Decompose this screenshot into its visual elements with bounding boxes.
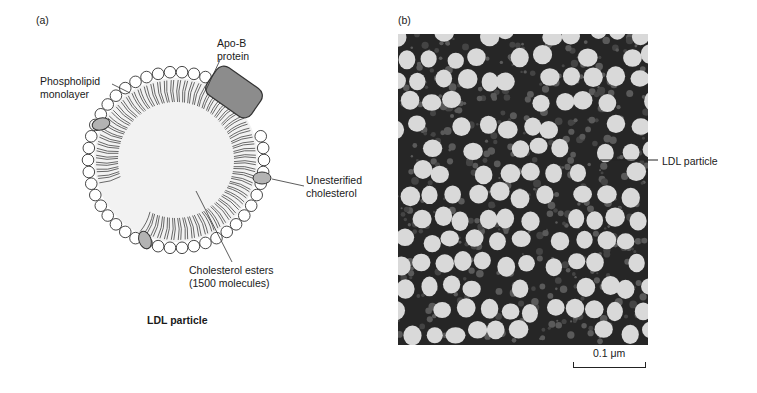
ldl-particle-image [498, 121, 518, 139]
ldl-particle-image [607, 302, 623, 321]
ldl-particle-image [480, 210, 497, 229]
ldl-particle-image [568, 253, 585, 269]
ldl-particle-image [576, 231, 592, 249]
ldl-particle-image [563, 67, 580, 85]
ldl-particle-image [573, 186, 592, 203]
ldl-particle-image [489, 232, 506, 250]
ldl-particle-image [435, 70, 452, 88]
ldl-particle-image [436, 254, 454, 273]
ldl-particle-image [599, 94, 617, 112]
ldl-particle-image [524, 118, 541, 136]
panel-b-tag: (b) [398, 14, 411, 26]
ldl-particle-image [480, 116, 497, 134]
ldl-particle-image [502, 304, 520, 320]
ldl-particle-image [401, 187, 421, 207]
ldl-particle-image [532, 95, 549, 112]
ldl-particle-image [434, 34, 454, 42]
unesterified-cholesterol [253, 172, 271, 184]
ldl-particle-image [622, 188, 640, 208]
ldl-particle-image [606, 66, 625, 86]
ldl-particle-image [466, 229, 484, 247]
ldl-particle-image [446, 327, 466, 343]
ldl-particle-image [632, 34, 648, 45]
phospholipid-head [245, 200, 257, 212]
ldl-particle-image [457, 298, 476, 317]
cholesterol-esters-label: Cholesterol esters (1500 molecules) [189, 264, 274, 289]
ldl-particle-image [595, 320, 613, 337]
phospholipid-head [89, 189, 101, 201]
ldl-particle-image [512, 231, 531, 248]
ldl-particle-image [511, 189, 530, 208]
ldl-particle-image [421, 50, 437, 67]
ldl-particle-image [629, 212, 646, 231]
ldl-particle-image [533, 45, 552, 64]
ldl-particle-image [431, 166, 449, 183]
ldl-particle-image [568, 209, 584, 228]
phospholipid-head [119, 226, 131, 238]
ldl-particle-title: LDL particle [147, 314, 208, 327]
ldl-particle-image [586, 253, 604, 272]
ldl-particle-image [424, 235, 441, 252]
phospholipid-head [258, 154, 270, 166]
ldl-particle-image [644, 92, 648, 111]
phospholipid-head [82, 154, 94, 166]
phospholipid-head [188, 68, 200, 80]
ldl-particle-image [509, 320, 529, 339]
ldl-particle-image [414, 160, 433, 179]
phospholipid-head [119, 82, 131, 94]
phospholipid-head [251, 189, 263, 201]
ldl-particle-image [468, 321, 487, 339]
ldl-particle-image [605, 208, 625, 227]
ldl-particle-micrograph-label: LDL particle [662, 155, 718, 168]
ldl-particle-image [539, 121, 558, 139]
ldl-particle-image [573, 91, 592, 109]
ldl-particle-image [452, 117, 470, 136]
ldl-particle-image [398, 229, 414, 246]
ldl-particle-image [401, 91, 420, 110]
ldl-particle-image [570, 164, 586, 182]
ldl-particle-image [556, 93, 574, 111]
phospholipid-head [176, 66, 188, 78]
ldl-particle-image [454, 251, 472, 271]
ldl-particle-image [462, 281, 480, 298]
ldl-particle-image [530, 138, 548, 154]
ldl-particle-image [421, 277, 437, 297]
ldl-particle-image [496, 209, 514, 229]
ldl-particle-image [551, 139, 568, 157]
phospholipid-head [238, 210, 250, 222]
ldl-particle-image [398, 301, 405, 320]
ldl-particle-image [522, 304, 538, 323]
ldl-particle-image [540, 68, 559, 86]
ldl-particle-image [469, 185, 488, 204]
phospholipid-head [211, 232, 223, 244]
ldl-particle-image [641, 44, 648, 64]
ldl-particle-image [607, 115, 626, 133]
ldl-particle-image [435, 206, 452, 226]
ldl-particle-image [487, 320, 505, 339]
ldl-particle-image [641, 278, 648, 295]
scale-bar-label: 0.1 μm [593, 347, 625, 360]
ldl-particle-image [403, 326, 421, 345]
ldl-particle-image [433, 302, 451, 318]
ldl-particle-image [642, 321, 648, 338]
ldl-particle-image [398, 279, 415, 299]
ldl-particle-image [546, 258, 562, 276]
ldl-particle-image [566, 299, 584, 318]
ldl-particle-image [398, 121, 404, 139]
ldl-particle-image [444, 185, 461, 203]
electron-micrograph [398, 34, 648, 345]
phospholipid-head [85, 178, 97, 190]
apo-b-protein-label: Apo-B protein [217, 37, 249, 62]
ldl-particle-image [585, 300, 604, 318]
ldl-particle-image [632, 118, 648, 135]
phospholipid-head [141, 71, 153, 83]
ldl-particle-image [427, 327, 443, 343]
ldl-particle-image [584, 67, 603, 87]
ldl-particle-image [630, 70, 648, 87]
ldl-particle-image [536, 185, 553, 204]
phospholipid-head [110, 219, 122, 231]
ldl-particle-image [521, 212, 539, 231]
ldl-particle-image [442, 91, 461, 108]
ldl-particle-image [463, 143, 483, 160]
ldl-particle-image [626, 162, 646, 181]
